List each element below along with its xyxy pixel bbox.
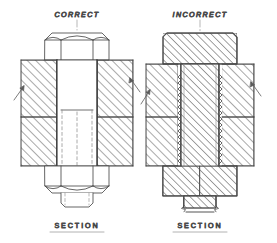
bolt-end-incorrect-hatched — [182, 196, 219, 212]
panel-correct: CORRECT — [14, 10, 140, 232]
drawing-sheet: CORRECT — [0, 0, 277, 243]
panel-incorrect: INCORRECT — [141, 10, 261, 232]
threaded-shank-incorrect-hatched — [178, 64, 222, 167]
section-label-incorrect: SECTION — [173, 221, 227, 232]
hex-nut-correct — [45, 166, 109, 193]
bolt-head-incorrect-hatched — [163, 33, 237, 64]
caption-incorrect: INCORRECT — [173, 10, 228, 19]
nut-incorrect-hatched — [163, 166, 237, 196]
caption-correct: CORRECT — [55, 10, 100, 19]
section-label-correct: SECTION — [50, 221, 104, 232]
svg-text:SECTION: SECTION — [177, 221, 222, 230]
bolt-end-correct — [61, 193, 93, 207]
svg-text:SECTION: SECTION — [54, 221, 99, 230]
hex-bolt-head-correct — [45, 33, 109, 60]
bolt-shank-correct — [57, 60, 97, 166]
